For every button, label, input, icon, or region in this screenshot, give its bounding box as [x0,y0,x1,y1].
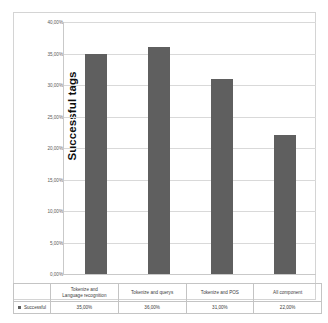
category-label-cell: Tokenize andLanguage recognition [51,284,119,302]
category-label-line: Tokenize and POS [187,290,254,296]
axis-tickmark [61,274,64,275]
y-axis-tick-label: 10,00% [31,209,63,214]
y-axis-tick-label: 15,00% [31,177,63,182]
y-axis-tick-label: 25,00% [31,114,63,119]
legend-column-spacer [14,284,51,302]
bar[interactable] [85,54,107,275]
category-label-cell: All component [254,284,322,302]
value-cell: 35,00% [51,302,119,314]
y-axis-tick-label: 30,00% [31,83,63,88]
data-table: Tokenize andLanguage recognitionTokenize… [13,283,322,314]
y-axis-tick-label: 20,00% [31,146,63,151]
value-cell: 36,00% [118,302,186,314]
legend-label: Successful [24,305,46,311]
y-axis-tick-label: 35,00% [31,51,63,56]
bar[interactable] [148,47,170,274]
category-label-line: Tokenize and querys [119,290,186,296]
category-label-line: Language recognition [51,293,118,299]
bar-slot [253,22,316,274]
chart-frame: Successful tags 40,00%35,00%30,00%25,00%… [13,12,316,300]
bar-slot [190,22,253,274]
category-label-line: All component [254,290,321,296]
category-label-cell: Tokenize and querys [118,284,186,302]
legend-entry[interactable]: Successful [14,302,51,314]
y-axis-tick-label: 0,00% [31,272,63,277]
plot-area [63,22,316,274]
bars-group [64,22,316,274]
value-cell: 22,00% [254,302,322,314]
y-axis-tick-label: 5,00% [31,240,63,245]
table-row-categories: Tokenize andLanguage recognitionTokenize… [14,284,322,302]
bar-slot [64,22,127,274]
y-axis-tick-label: 40,00% [31,20,63,25]
bar[interactable] [274,135,296,274]
square-marker-icon [18,306,21,309]
bar-slot [127,22,190,274]
gridline [64,274,316,275]
bar[interactable] [211,79,233,274]
value-cell: 31,00% [186,302,254,314]
category-label-cell: Tokenize and POS [186,284,254,302]
table-row-values: Successful 35,00%36,00%31,00%22,00% [14,302,322,314]
y-axis-tick-labels: 40,00%35,00%30,00%25,00%20,00%15,00%10,0… [31,22,63,274]
